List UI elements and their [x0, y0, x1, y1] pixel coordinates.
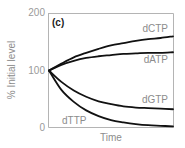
series-label-datp: dATP — [144, 54, 169, 65]
y-tick-label: 100 — [28, 65, 45, 76]
y-axis-label: % Initial level — [6, 41, 17, 99]
y-tick-label: 200 — [28, 7, 45, 18]
series-label-dgtp: dGTP — [142, 94, 168, 105]
y-tick-label: 0 — [39, 122, 45, 133]
panel-label: (c) — [52, 17, 64, 28]
chart: 200 100 0 % Initial level Time (c) dCTP … — [0, 0, 185, 148]
series-label-dctp: dCTP — [142, 23, 168, 34]
x-axis-label: Time — [100, 132, 122, 143]
series-label-dttp: dTTP — [62, 115, 87, 126]
series-curves — [49, 36, 173, 126]
